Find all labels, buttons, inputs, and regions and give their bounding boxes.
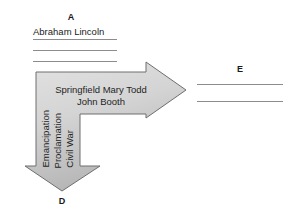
diagram-canvas: A Abraham Lincoln Springfield Mary Todd …: [0, 0, 293, 220]
section-e-blank-line-1: [197, 84, 283, 85]
arrow-down-text-line-3: Civil War: [64, 130, 76, 168]
arrow-down-text-stack: Emancipation Proclamation Civil War: [40, 112, 76, 168]
arrow-right-text-line-2: John Booth: [52, 96, 150, 108]
arrow-down-text-line-1: Emancipation: [40, 110, 52, 168]
section-d-letter: D: [55, 196, 69, 206]
section-e-blank-line-2: [197, 101, 283, 102]
arrow-right-text-line-1: Springfield Mary Todd: [52, 84, 150, 96]
arrow-down-text-line-2: Proclamation: [52, 113, 64, 168]
section-e-letter: E: [233, 64, 247, 74]
